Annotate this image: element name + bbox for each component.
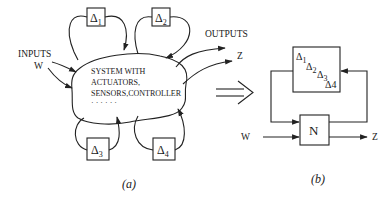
delta-b-2: Δ2 [306, 61, 316, 75]
delta-1-label: Δ1 [90, 11, 102, 27]
delta-to-n-line [271, 71, 299, 122]
diagram-canvas: SYSTEM WITH ACTUATORS, SENSORS,CONTROLLE… [0, 0, 392, 198]
delta-block-labels: Δ1 Δ2 Δ3 Δ4 [296, 51, 336, 90]
input-signal-w-b: W [241, 132, 250, 142]
inputs-label: INPUTS [18, 49, 51, 59]
delta-1-in-arrow [105, 16, 126, 50]
delta-1-block: Δ1 [69, 8, 126, 60]
delta-2-out-loop [135, 17, 152, 54]
delta-2-block: Δ2 [135, 8, 190, 58]
delta-4-block: Δ4 [134, 109, 184, 160]
panel-b: Δ1 Δ2 Δ3 Δ4 N W Z (b) [241, 47, 378, 186]
transform-arrow [216, 81, 253, 104]
output-signal-z: Z [237, 51, 243, 61]
delta-1-out-loop [69, 16, 87, 60]
system-text: SYSTEM WITH ACTUATORS, SENSORS,CONTROLLE… [91, 67, 182, 107]
system-text-line2: ACTUATORS, [91, 78, 140, 87]
delta-3-out-loop [75, 118, 87, 150]
panel-a: SYSTEM WITH ACTUATORS, SENSORS,CONTROLLE… [18, 8, 248, 191]
delta-4-in-arrow [175, 109, 184, 150]
input-signal-w: W [34, 61, 43, 71]
delta-b-4: Δ4 [325, 79, 336, 90]
system-text-line1: SYSTEM WITH [91, 67, 146, 76]
system-text-line3: SENSORS,CONTROLLER [91, 89, 182, 98]
caption-a: (a) [122, 177, 136, 191]
delta-3-label: Δ3 [91, 143, 103, 159]
plant-n-label: N [309, 123, 319, 138]
input-arrow-1 [52, 62, 76, 72]
delta-b-1: Δ1 [296, 51, 306, 65]
output-arrow-2 [183, 61, 232, 84]
system-text-line4: · · · · · · [91, 98, 117, 107]
caption-b: (b) [311, 172, 325, 186]
delta-3-in-arrow [109, 117, 119, 150]
input-arrow-2 [48, 68, 72, 88]
delta-2-label: Δ2 [155, 11, 167, 27]
output-signal-z-b: Z [372, 132, 378, 142]
delta-4-label: Δ4 [157, 143, 169, 159]
outputs-label: OUTPUTS [205, 29, 248, 39]
